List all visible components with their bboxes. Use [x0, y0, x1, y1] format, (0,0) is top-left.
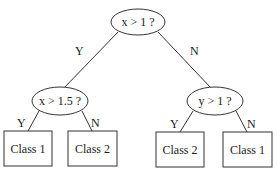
edge-root-no: [158, 32, 211, 88]
leaf-left-no-label: Class 2: [75, 142, 110, 156]
left-no-label: N: [91, 116, 100, 130]
root-no-label: N: [190, 44, 199, 58]
edge-root-yes: [64, 32, 118, 88]
leaf-left-yes: Class 1: [4, 131, 52, 166]
right-condition: y > 1 ?: [198, 94, 231, 108]
left-yes-label: Y: [17, 116, 26, 130]
left-condition: x > 1.5 ?: [39, 94, 81, 108]
root-condition: x > 1 ?: [121, 15, 154, 29]
leaf-right-yes-label: Class 2: [162, 143, 197, 157]
leaf-right-no-label: Class 1: [230, 143, 265, 157]
leaf-right-yes: Class 2: [156, 132, 204, 167]
leaf-right-no: Class 1: [223, 132, 272, 167]
root-decision-node: x > 1 ?: [111, 9, 165, 35]
left-decision-node: x > 1.5 ?: [32, 87, 88, 115]
decision-tree-diagram: Y N Y N Y N x > 1 ? x > 1.5 ? y > 1 ? Cl…: [0, 0, 277, 172]
right-yes-label: Y: [170, 117, 179, 131]
right-no-label: N: [247, 117, 256, 131]
right-decision-node: y > 1 ?: [187, 87, 243, 115]
root-yes-label: Y: [75, 44, 84, 58]
edge-right-yes: [180, 111, 193, 132]
edge-left-yes: [28, 111, 39, 131]
edge-right-no: [236, 111, 247, 132]
leaf-left-no: Class 2: [68, 131, 117, 166]
leaf-left-yes-label: Class 1: [10, 142, 45, 156]
